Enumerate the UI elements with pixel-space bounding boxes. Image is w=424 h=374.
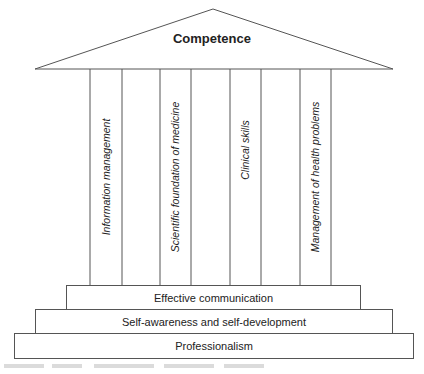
step-label: Professionalism [175,340,253,352]
pillar-information-management: Information management [100,119,112,236]
pillar-scientific-foundation: Scientific foundation of medicine [169,102,181,253]
step-effective-communication: Effective communication [66,285,361,310]
roof-title: Competence [0,31,424,46]
pillar-management-health-problems: Management of health problems [309,102,321,253]
pillar-clinical-skills: Clinical skills [239,120,251,180]
step-self-awareness: Self-awareness and self-development [35,309,393,334]
step-professionalism: Professionalism [14,333,414,359]
truncated-caption [4,364,274,370]
pillar-lines [90,69,331,285]
step-label: Self-awareness and self-development [122,316,306,328]
step-label: Effective communication [154,292,273,304]
